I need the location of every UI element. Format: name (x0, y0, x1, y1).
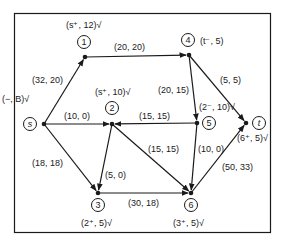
node-5-tag: (2⁻, 10)√ (199, 102, 235, 112)
edge-label-5-2: (15, 15) (139, 111, 170, 121)
node-2-dot (110, 122, 115, 127)
node-1-dot (83, 55, 88, 60)
node-s-tag: (−, B)√ (2, 94, 29, 104)
node-6-label: 6 (188, 200, 193, 210)
edge-label-5-6: (10, 0) (198, 144, 224, 154)
edge-1-4 (85, 55, 186, 57)
node-6-dot (189, 191, 194, 196)
edges-group: (32, 20)(20, 20)(10, 0)(15, 15)(20, 15)(… (32, 42, 253, 208)
edge-label-s-1: (32, 20) (32, 75, 63, 85)
edge-label-s-3: (18, 18) (32, 158, 63, 168)
node-4-dot (187, 53, 192, 58)
node-1-label: 1 (81, 37, 86, 47)
edge-label-6-t: (50, 33) (222, 162, 253, 172)
edge-label-2-6: (15, 15) (148, 144, 179, 154)
node-3-dot (96, 191, 101, 196)
edge-label-2-3: (5, 0) (105, 170, 126, 180)
node-2-tag: (s⁺, 10)√ (95, 87, 131, 97)
node-3-label: 3 (95, 200, 100, 210)
flow-network-diagram: (32, 20)(20, 20)(10, 0)(15, 15)(20, 15)(… (0, 0, 284, 244)
node-t-dot (244, 121, 249, 126)
edge-2-3 (99, 124, 112, 190)
edge-5-6 (191, 123, 197, 190)
node-6-tag: (3⁺, 5)√ (173, 218, 204, 228)
edge-label-4-t: (5, 5) (220, 75, 241, 85)
node-5-dot (195, 121, 200, 126)
node-4-tag: (t⁻, 5) (200, 36, 224, 46)
edge-4-5 (189, 55, 197, 120)
edge-5-2 (115, 123, 197, 124)
edge-label-4-5: (20, 15) (158, 85, 189, 95)
node-s-dot (42, 122, 47, 127)
edge-label-s-2: (10, 0) (64, 111, 90, 121)
node-t-tag: (6⁺, 5)√ (237, 133, 268, 143)
node-1-tag: (s⁺, 12)√ (66, 20, 102, 30)
node-3-tag: (2⁺, 5)√ (81, 218, 112, 228)
node-2-label: 2 (109, 103, 114, 113)
node-4-label: 4 (185, 35, 190, 45)
edge-label-1-4: (20, 20) (114, 42, 145, 52)
edge-label-3-6: (30, 18) (128, 198, 159, 208)
node-s-label: s (28, 119, 33, 129)
edge-2-6 (112, 124, 189, 191)
node-5-label: 5 (206, 118, 211, 128)
